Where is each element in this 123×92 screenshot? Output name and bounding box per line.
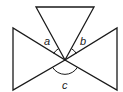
angle-a-arc: [54, 49, 59, 54]
angle-c-label: c: [62, 79, 68, 91]
angle-b-arc: [72, 49, 77, 54]
right-triangle: [65, 28, 117, 90]
left-triangle: [13, 28, 65, 90]
angle-a-label: a: [44, 35, 50, 47]
angle-c-arc: [53, 67, 78, 74]
top-triangle: [36, 7, 94, 60]
angle-b-label: b: [80, 35, 86, 47]
angle-diagram: a b c: [0, 0, 123, 92]
